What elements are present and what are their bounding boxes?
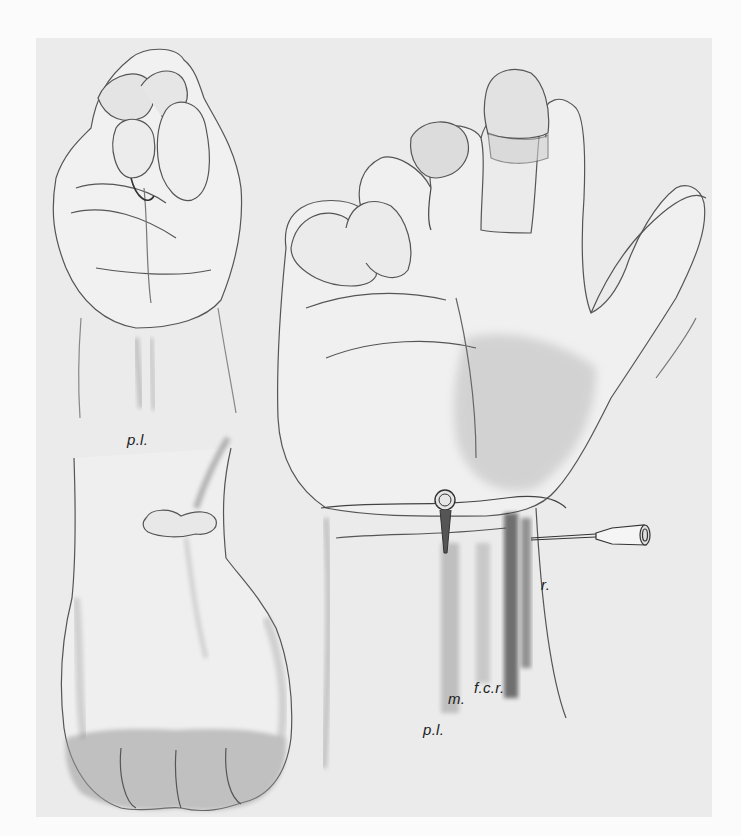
fist-dorsal xyxy=(61,438,292,811)
open-hand-palmar xyxy=(278,70,706,768)
label-palmaris-longus-bottom: p.l. xyxy=(423,722,444,737)
needle xyxy=(531,525,650,545)
label-median-nerve: m. xyxy=(448,691,465,706)
hand-illustration xyxy=(36,38,712,817)
clenched-fist-palmar xyxy=(53,49,241,418)
illustration-panel: p.l. r. m. f.c.r. p.l. xyxy=(36,38,712,817)
label-palmaris-longus-top: p.l. xyxy=(127,432,148,447)
label-flexor-carpi-radialis: f.c.r. xyxy=(474,680,504,695)
label-radial-artery: r. xyxy=(541,577,550,592)
